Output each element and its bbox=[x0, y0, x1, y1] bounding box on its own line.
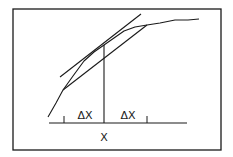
tangent-line bbox=[60, 14, 141, 77]
delta-x-right-label: ΔX bbox=[120, 109, 136, 122]
delta-x-left-label: ΔX bbox=[77, 109, 93, 122]
secant-line bbox=[63, 25, 147, 90]
diagram-frame bbox=[13, 9, 221, 150]
tangent-secant-diagram: ΔX ΔX X bbox=[0, 0, 233, 157]
function-curve bbox=[48, 19, 199, 117]
x-label: X bbox=[100, 131, 108, 144]
